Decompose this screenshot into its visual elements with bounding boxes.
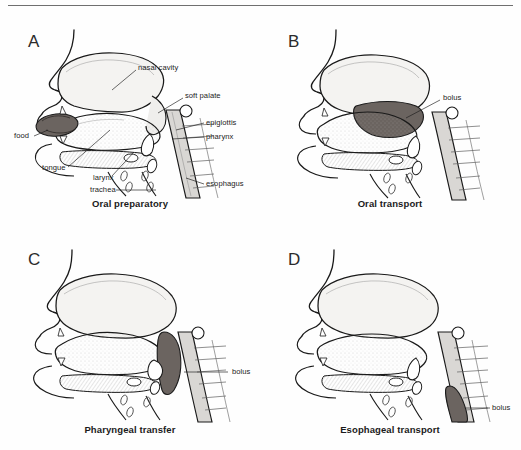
label-nasal-cavity: nasal cavity bbox=[138, 64, 178, 72]
label-tongue: tongue bbox=[42, 164, 66, 172]
sagittal-head-diagram-c bbox=[0, 228, 260, 428]
panel-c-pharyngeal-transfer: C bbox=[0, 228, 260, 450]
panel-d-esophageal-transport: D bbox=[260, 228, 520, 450]
bolus-mass-c bbox=[157, 332, 181, 395]
caption-panel-d: Esophageal transport bbox=[260, 424, 520, 435]
sagittal-head-diagram-b bbox=[260, 6, 520, 206]
panel-b-oral-transport: B bbox=[260, 6, 520, 228]
caption-panel-b: Oral transport bbox=[260, 198, 520, 209]
label-soft-palate: soft palate bbox=[185, 92, 221, 100]
caption-panel-a: Oral preparatory bbox=[0, 198, 260, 209]
label-bolus-d: bolus bbox=[492, 404, 510, 412]
label-esophagus: esophagus bbox=[206, 180, 244, 188]
label-bolus-c: bolus bbox=[232, 368, 250, 376]
label-pharynx: pharynx bbox=[206, 133, 233, 141]
swallowing-phases-figure: A bbox=[0, 0, 521, 450]
sagittal-head-diagram-a bbox=[0, 6, 260, 206]
sagittal-head-diagram-d bbox=[260, 228, 520, 428]
panel-a-oral-preparatory: A bbox=[0, 6, 260, 228]
label-larynx: larynx bbox=[93, 174, 114, 182]
label-epiglottis: epiglottis bbox=[206, 119, 236, 127]
caption-panel-c: Pharyngeal transfer bbox=[0, 424, 260, 435]
label-trachea: trachea bbox=[90, 186, 116, 194]
label-bolus-b: bolus bbox=[443, 94, 461, 102]
label-food: food bbox=[14, 132, 29, 140]
